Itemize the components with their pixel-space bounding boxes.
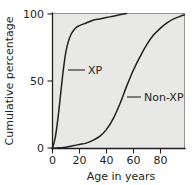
x-tick-label-0: 0 <box>49 154 56 167</box>
x-axis-title: Age in years <box>87 170 156 183</box>
y-tick-label-50: 50 <box>30 75 44 88</box>
plot-area-background <box>53 14 185 149</box>
x-tick-label-80: 80 <box>154 154 168 167</box>
x-tick-label-20: 20 <box>73 154 87 167</box>
chart-figure: 100 50 0 0 20 40 60 80 Age in years Cumu… <box>0 0 196 185</box>
y-axis-title: Cumulative percentage <box>3 16 16 145</box>
series-label-non-xp: Non-XP <box>144 91 184 104</box>
series-label-xp: XP <box>88 64 103 77</box>
x-tick-label-60: 60 <box>127 154 141 167</box>
y-tick-label-0: 0 <box>37 142 44 155</box>
y-tick-label-100: 100 <box>23 8 44 21</box>
x-tick-label-40: 40 <box>100 154 114 167</box>
